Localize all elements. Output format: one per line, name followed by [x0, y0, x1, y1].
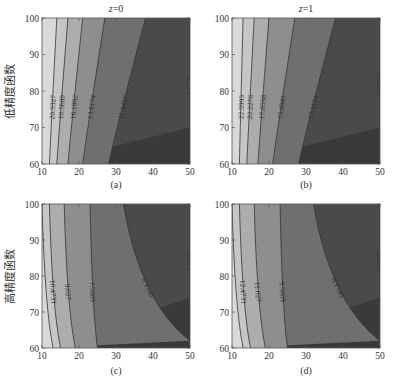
- y-tick-label: 90: [30, 50, 40, 60]
- panel-b: z=1 22.599320.227617.855815.484113.11241…: [215, 3, 385, 191]
- y-tick-label: 70: [220, 123, 230, 133]
- x-tick-label: 30: [301, 167, 311, 177]
- panel-b-caption: (b): [300, 179, 312, 191]
- x-tick-label: 30: [301, 351, 311, 361]
- x-tick-label: 20: [74, 351, 84, 361]
- x-tick-label: 40: [338, 167, 348, 177]
- y-tick-label: 100: [215, 14, 230, 24]
- y-tick-label: 80: [220, 87, 230, 97]
- x-tick-label: 20: [264, 167, 274, 177]
- x-tick-label: 50: [185, 351, 195, 361]
- contour-label: 10.4731: [48, 279, 59, 304]
- y-tick-label: 80: [30, 87, 40, 97]
- contour-label: 4.6887: [186, 251, 195, 272]
- contour-label: 18.5609: [56, 94, 67, 119]
- contour-label: 9.5809: [277, 281, 287, 302]
- x-tick-label: 40: [148, 351, 158, 361]
- x-tick-label: 30: [111, 167, 121, 177]
- panel-a-ylabel: 低精度函数: [3, 64, 16, 119]
- x-tick-label: 30: [111, 351, 121, 361]
- y-tick-label: 60: [220, 344, 230, 354]
- panel-c-ylabel: 高精度函数: [3, 249, 16, 304]
- contour-label: 11.027: [253, 281, 264, 302]
- contour-figure: z=0 20.932718.560916.189213.817411.44579…: [0, 0, 393, 387]
- panel-d: 12.473111.0279.58098.13486.6887102030405…: [215, 200, 385, 378]
- y-tick-label: 60: [220, 160, 230, 170]
- panel-d-caption: (d): [300, 365, 312, 377]
- x-tick-label: 20: [74, 167, 84, 177]
- contour-label: 10.7406: [376, 72, 385, 97]
- panel-b-plot-area: 22.599320.227617.855815.484113.112410.74…: [215, 14, 385, 178]
- panel-a: z=0 20.932718.560916.189213.817411.44579…: [3, 3, 195, 191]
- contour-label: 7.5809: [87, 281, 97, 302]
- contour-label: 6.6887: [376, 251, 385, 272]
- x-tick-label: 50: [185, 167, 195, 177]
- y-tick-label: 90: [220, 50, 230, 60]
- panel-b-title: z=1: [298, 3, 314, 14]
- y-tick-label: 70: [220, 308, 230, 318]
- y-tick-label: 60: [30, 160, 40, 170]
- contour-label: 9.0739: [186, 74, 195, 95]
- panel-c-plot-area: 10.47319.0277.58096.13484.68871020304050…: [25, 200, 195, 362]
- x-tick-label: 50: [375, 167, 385, 177]
- x-tick-label: 20: [264, 351, 274, 361]
- y-tick-label: 70: [30, 308, 40, 318]
- y-tick-label: 60: [30, 344, 40, 354]
- contour-label: 9.027: [63, 283, 73, 301]
- panel-c: 10.47319.0277.58096.13484.68871020304050…: [3, 200, 195, 378]
- y-tick-label: 70: [30, 123, 40, 133]
- panel-a-plot-area: 20.932718.560916.189213.817411.44579.073…: [25, 14, 195, 178]
- panel-a-title: z=0: [108, 3, 124, 14]
- panel-d-plot-area: 12.473111.0279.58098.13486.6887102030405…: [215, 200, 385, 362]
- panel-c-caption: (c): [110, 365, 121, 377]
- y-tick-label: 90: [220, 236, 230, 246]
- contour-label: 12.4731: [238, 279, 249, 304]
- x-tick-label: 40: [148, 167, 158, 177]
- x-tick-label: 50: [375, 351, 385, 361]
- contour-label: 20.2276: [245, 94, 255, 119]
- y-tick-label: 100: [25, 14, 40, 24]
- contour-label: 17.8558: [257, 94, 268, 119]
- y-tick-label: 100: [25, 200, 40, 210]
- y-tick-label: 90: [30, 236, 40, 246]
- panel-a-caption: (a): [110, 179, 121, 191]
- x-tick-label: 40: [338, 351, 348, 361]
- y-tick-label: 80: [30, 272, 40, 282]
- y-tick-label: 80: [220, 272, 230, 282]
- y-tick-label: 100: [215, 200, 230, 210]
